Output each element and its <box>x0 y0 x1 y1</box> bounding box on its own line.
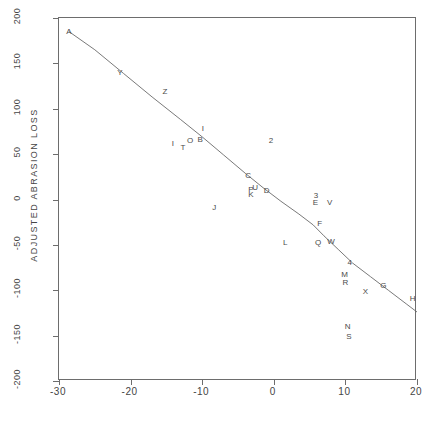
x-axis-tick <box>59 379 60 385</box>
data-point-label: W <box>327 238 335 246</box>
data-point-label: A <box>66 28 71 36</box>
data-point-label: Y <box>117 69 122 77</box>
y-axis-tick-label-text: -50 <box>12 226 22 260</box>
y-axis-tick <box>53 336 59 337</box>
x-axis-tick <box>202 379 203 385</box>
data-point-label: K <box>248 191 253 199</box>
data-point-label: V <box>327 199 332 207</box>
y-axis-tick <box>53 18 59 19</box>
data-point-label: H <box>410 295 416 303</box>
x-axis-tick-label: 10 <box>338 386 350 397</box>
y-axis-tick <box>53 109 59 110</box>
data-point-label: B <box>197 136 202 144</box>
y-axis-tick <box>53 154 59 155</box>
chart-container: ADJUSTED ABRASION LOSS AYZIITOB2JCPUKD3E… <box>0 0 428 431</box>
y-axis-tick <box>53 63 59 64</box>
y-axis-tick-label-text: 50 <box>12 135 22 169</box>
y-axis-title: ADJUSTED ABRASION LOSS <box>29 65 39 305</box>
data-point-label: I <box>172 140 174 148</box>
data-point-label: 2 <box>269 137 273 145</box>
data-point-label: G <box>380 282 386 290</box>
data-point-label: X <box>363 288 368 296</box>
data-point-label: J <box>212 204 216 212</box>
x-axis-tick <box>131 379 132 385</box>
data-point-label: N <box>345 323 351 331</box>
data-point-label: F <box>317 220 322 228</box>
y-axis-tick-label-text: 150 <box>12 44 22 78</box>
x-axis-tick-label: -20 <box>122 386 138 397</box>
x-axis-tick-label: 20 <box>410 386 422 397</box>
plot-frame: AYZIITOB2JCPUKD3EVFLQW4MRGXHNS <box>58 17 416 380</box>
data-point-label: C <box>245 172 251 180</box>
y-axis-tick-label-text: 100 <box>12 90 22 124</box>
y-axis-tick-label-text: -100 <box>12 271 22 305</box>
x-axis-tick <box>417 379 418 385</box>
x-axis-tick-label: 0 <box>270 386 276 397</box>
y-axis-tick-label-text: 200 <box>12 0 22 33</box>
y-axis-tick <box>53 200 59 201</box>
data-point-label: Q <box>315 239 321 247</box>
data-point-label: R <box>343 279 349 287</box>
data-point-label: O <box>187 137 193 145</box>
fit-curve <box>59 18 417 381</box>
data-point-label: T <box>180 144 185 152</box>
data-point-label: L <box>283 239 287 247</box>
y-axis-tick-label-text: -200 <box>12 362 22 396</box>
data-point-label: S <box>346 333 351 341</box>
data-point-label: Z <box>163 88 168 96</box>
y-axis-tick-label-text: -150 <box>12 317 22 351</box>
data-point-label: D <box>264 187 270 195</box>
data-point-label: I <box>202 125 204 133</box>
y-axis-tick <box>53 245 59 246</box>
x-axis-tick <box>274 379 275 385</box>
y-axis-tick <box>53 290 59 291</box>
data-point-label: E <box>313 199 318 207</box>
x-axis-tick-label: -30 <box>50 386 66 397</box>
data-point-label: 4 <box>347 259 351 267</box>
x-axis-tick <box>345 379 346 385</box>
y-axis-tick-label-text: 0 <box>12 181 22 215</box>
x-axis-tick-label: -10 <box>193 386 209 397</box>
